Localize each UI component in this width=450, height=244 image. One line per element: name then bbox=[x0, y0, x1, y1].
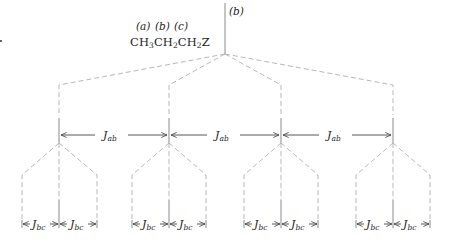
jab-label-3: Jab bbox=[325, 129, 341, 143]
jbc-label: Jbc bbox=[289, 218, 305, 232]
jbc-label: Jbc bbox=[140, 218, 156, 232]
jbc-label: Jbc bbox=[68, 218, 84, 232]
jbc-label: Jbc bbox=[252, 218, 268, 232]
level2-branches bbox=[22, 143, 430, 222]
jbc-label: Jbc bbox=[177, 218, 193, 232]
level1-branches bbox=[59, 54, 393, 115]
jab-label-1: Jab bbox=[101, 129, 117, 143]
splitting-tree-diagram: Jab Jab Jab bbox=[0, 0, 450, 244]
jbc-label: Jbc bbox=[30, 218, 46, 232]
jab-arrows: Jab Jab Jab bbox=[61, 129, 391, 143]
jbc-arrows: Jbc Jbc Jbc Jbc Jbc Jbc Jbc Jbc bbox=[23, 218, 429, 232]
jbc-label: Jbc bbox=[364, 218, 380, 232]
jbc-label: Jbc bbox=[401, 218, 417, 232]
level2-center-lines bbox=[59, 200, 393, 228]
jab-label-2: Jab bbox=[213, 129, 229, 143]
